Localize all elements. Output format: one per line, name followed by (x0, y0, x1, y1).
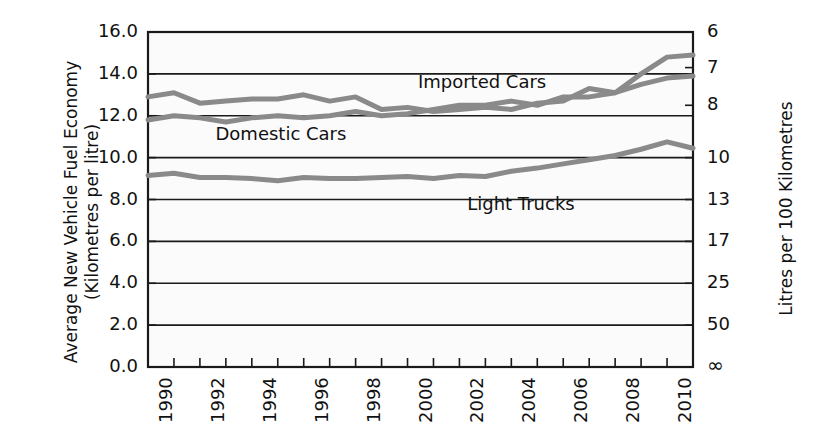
y-tick-label-right: 10 (707, 146, 751, 167)
x-tick-label: 1990 (155, 377, 176, 423)
x-tick-label: 2000 (415, 377, 436, 423)
y-tick-label-right: 8 (707, 93, 751, 114)
y-tick-label-left: 16.0 (82, 20, 138, 41)
x-tick-label: 2002 (466, 377, 487, 423)
x-tick-label: 1994 (259, 377, 280, 423)
y-tick-label-right: 17 (707, 229, 751, 250)
y-tick-label-left: 8.0 (82, 188, 138, 209)
y-tick-label-left: 4.0 (82, 271, 138, 292)
y-tick-label-right: 25 (707, 271, 751, 292)
x-tick-label: 1992 (207, 377, 228, 423)
series-label-1: Domestic Cars (215, 123, 346, 144)
x-tick-label: 2006 (570, 377, 591, 423)
x-tick-label: 1996 (311, 377, 332, 423)
y-tick-label-left: 12.0 (82, 104, 138, 125)
y-tick-label-right: 6 (707, 20, 751, 41)
y-tick-label-right: 7 (707, 56, 751, 77)
y-tick-label-right: 13 (707, 188, 751, 209)
y-tick-label-left: 14.0 (82, 62, 138, 83)
series-label-0: Imported Cars (418, 71, 546, 92)
x-tick-label: 2004 (518, 377, 539, 423)
y-tick-label-right: 50 (707, 313, 751, 334)
y-tick-label-left: 2.0 (82, 313, 138, 334)
chart-figure: Average New Vehicle Fuel Economy (Kilome… (0, 0, 816, 444)
x-tick-label: 2008 (622, 377, 643, 423)
y-tick-label-left: 6.0 (82, 229, 138, 250)
x-tick-label: 2010 (674, 377, 695, 423)
x-tick-label: 1998 (363, 377, 384, 423)
y-tick-label-left: 10.0 (82, 146, 138, 167)
series-label-2: Light Trucks (467, 193, 575, 214)
y-tick-label-right: ∞ (707, 353, 751, 377)
y-tick-label-left: 0.0 (82, 355, 138, 376)
